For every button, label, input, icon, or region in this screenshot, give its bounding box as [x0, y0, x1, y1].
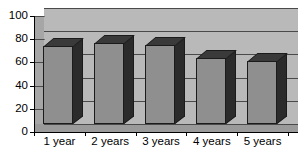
y-axis-tick-label: 0 — [22, 126, 28, 137]
y-axis-tick — [30, 16, 35, 17]
x-axis-tick-label: 5 years — [233, 134, 293, 148]
bar — [43, 46, 73, 124]
y-axis-tick — [30, 109, 35, 110]
y-axis-tick — [30, 39, 35, 40]
bar-side-face — [226, 50, 236, 124]
y-axis-labels: 100806040200 — [0, 0, 30, 152]
y-axis-tick-label: 60 — [15, 56, 28, 67]
bar-side-face — [175, 37, 185, 124]
bar — [94, 43, 124, 124]
y-axis-tick — [30, 62, 35, 63]
bar-front-face — [145, 45, 175, 124]
y-axis-line — [34, 16, 35, 133]
y-axis-tick — [30, 86, 35, 87]
bar — [145, 45, 175, 124]
bar-chart: 100806040200 1 year2 years3 years4 years… — [0, 0, 306, 152]
x-axis-line — [34, 132, 298, 133]
y-axis-tick-label: 100 — [9, 10, 28, 21]
bar-series — [34, 8, 298, 132]
bar — [247, 61, 277, 124]
bar-front-face — [196, 58, 226, 124]
bar-side-face — [124, 35, 134, 124]
bar-front-face — [43, 46, 73, 124]
bar-side-face — [277, 54, 287, 124]
y-axis-tick-label: 40 — [15, 80, 28, 91]
bar-front-face — [247, 61, 277, 124]
x-axis-labels: 1 year2 years3 years4 years5 years — [34, 134, 298, 152]
y-axis-tick-label: 80 — [15, 33, 28, 44]
bar-side-face — [73, 38, 83, 124]
bar — [196, 58, 226, 124]
bar-front-face — [94, 43, 124, 124]
y-axis-tick-label: 20 — [15, 103, 28, 114]
